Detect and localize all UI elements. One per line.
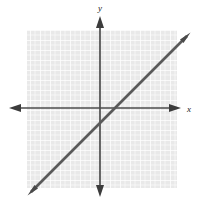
graph-canvas: x y (0, 0, 204, 211)
y-axis-down-arrowhead (96, 185, 104, 197)
x-axis-label: x (186, 104, 191, 114)
x-axis-left-arrowhead (9, 104, 21, 112)
y-axis-label: y (97, 3, 102, 13)
grid-area (27, 30, 177, 188)
coordinate-plane-figure: x y (0, 0, 204, 211)
y-axis-up-arrowhead (96, 16, 104, 28)
